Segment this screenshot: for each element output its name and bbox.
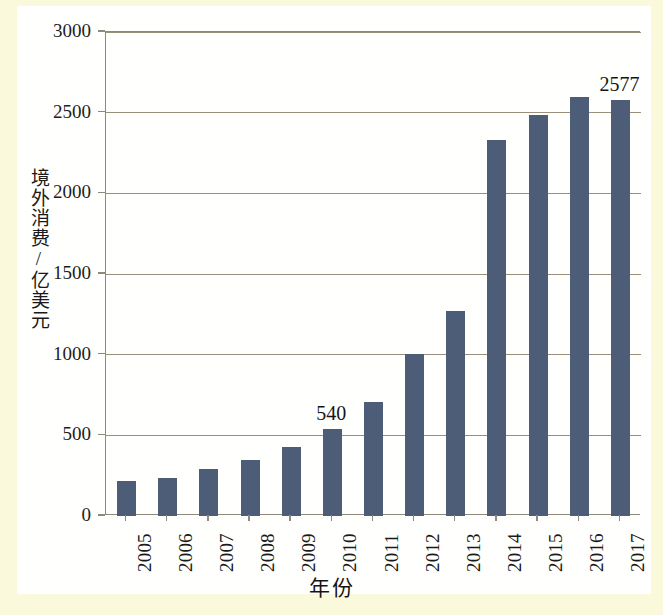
y-tick-label: 3000 [0, 21, 91, 40]
x-tick-label: 2014 [504, 533, 526, 572]
y-tick-mark [98, 514, 105, 516]
x-tick-mark [248, 515, 249, 521]
grid-line [106, 32, 641, 33]
y-tick-mark [98, 30, 105, 32]
grid-line [106, 193, 641, 194]
bar-chart: 境外消费/亿美元 050010001500200025003000 540257… [0, 0, 663, 615]
x-tick-mark [619, 515, 620, 521]
y-tick-mark [98, 434, 105, 436]
grid-line [106, 354, 641, 355]
x-tick-mark [495, 515, 496, 521]
bar[interactable] [199, 469, 218, 516]
x-tick-label: 2007 [216, 533, 238, 572]
bar-value-label: 2577 [584, 73, 654, 96]
x-tick-mark [372, 515, 373, 521]
x-tick-mark [578, 515, 579, 521]
y-tick-mark [98, 353, 105, 355]
bar[interactable] [241, 460, 260, 516]
y-tick-label: 1000 [0, 344, 91, 363]
bar[interactable] [487, 140, 506, 516]
y-tick-label: 500 [0, 424, 91, 443]
x-tick-label: 2005 [134, 533, 156, 572]
bar[interactable] [529, 115, 548, 516]
x-tick-mark [125, 515, 126, 521]
bar[interactable] [570, 97, 589, 516]
bar[interactable] [282, 447, 301, 516]
x-tick-label: 2015 [545, 533, 567, 572]
x-tick-label: 2013 [463, 533, 485, 572]
bar[interactable] [158, 478, 177, 516]
x-tick-label: 2012 [422, 533, 444, 572]
x-tick-mark [454, 515, 455, 521]
y-tick-mark [98, 111, 105, 113]
y-tick-label: 0 [0, 505, 91, 524]
x-tick-mark [413, 515, 414, 521]
bar[interactable] [117, 481, 136, 516]
x-tick-mark [536, 515, 537, 521]
bar[interactable] [611, 100, 630, 516]
y-tick-label: 2000 [0, 182, 91, 201]
bar[interactable] [446, 311, 465, 516]
x-tick-mark [331, 515, 332, 521]
x-tick-label: 2016 [586, 533, 608, 572]
bar[interactable] [364, 402, 383, 516]
bar[interactable] [323, 429, 342, 516]
y-tick-label: 1500 [0, 263, 91, 282]
bar[interactable] [405, 354, 424, 516]
x-tick-label: 2006 [175, 533, 197, 572]
x-tick-label: 2009 [298, 533, 320, 572]
y-tick-label: 2500 [0, 102, 91, 121]
y-tick-mark [98, 272, 105, 274]
y-tick-mark [98, 192, 105, 194]
x-tick-mark [166, 515, 167, 521]
x-tick-label: 2011 [381, 534, 403, 572]
page-background: 境外消费/亿美元 050010001500200025003000 540257… [0, 0, 663, 615]
grid-line [106, 112, 641, 113]
x-tick-mark [207, 515, 208, 521]
x-tick-label: 2010 [339, 533, 361, 572]
x-tick-mark [289, 515, 290, 521]
x-tick-label: 2008 [257, 533, 279, 572]
bar-value-label: 540 [296, 402, 366, 425]
grid-line [106, 274, 641, 275]
x-tick-label: 2017 [627, 533, 649, 572]
plot-area [105, 31, 640, 515]
x-axis-title: 年份 [0, 571, 663, 601]
